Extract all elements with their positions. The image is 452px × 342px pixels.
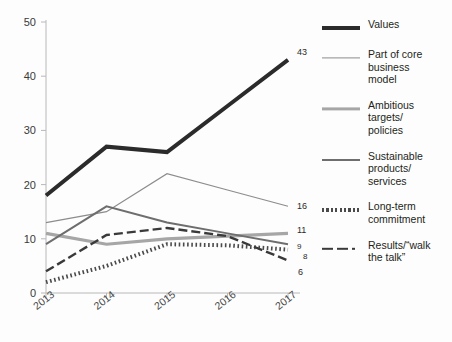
- x-tick-label: 2014: [91, 288, 117, 312]
- legend-label-sustainable-products-services: Sustainable products/ services: [368, 150, 423, 188]
- y-tick-label: 20: [24, 179, 36, 191]
- y-tick-label: 10: [24, 233, 36, 245]
- legend-label-results-walk-the-talk: Results/“walk the talk”: [368, 239, 430, 264]
- line-thick-black-icon: [322, 21, 360, 35]
- x-tick-group: 20132014201520162017: [31, 288, 299, 312]
- line-dotted-icon: [322, 203, 360, 217]
- plot-area: 01020304050 20132014201520162017 4316119…: [0, 0, 318, 342]
- series-end-label-4: 8: [303, 252, 308, 261]
- legend-label-part-of-core-business-model: Part of core business model: [368, 48, 422, 86]
- line-medium-gray-icon: [322, 153, 360, 167]
- chart-legend: Values Part of core business model Ambit…: [322, 18, 452, 277]
- legend-item-part-of-core-business-model[interactable]: Part of core business model: [322, 48, 452, 86]
- x-tick-label: 2015: [152, 288, 178, 312]
- series-end-label-0: 43: [297, 47, 307, 57]
- y-tick-label: 30: [24, 124, 36, 136]
- legend-item-sustainable-products-services[interactable]: Sustainable products/ services: [322, 150, 452, 188]
- series-line-1: [46, 174, 288, 223]
- line-thin-gray-icon: [322, 51, 360, 65]
- series-end-label-5: 6: [298, 267, 303, 277]
- end-label-group: 431611986: [297, 47, 308, 278]
- y-tick-label: 0: [30, 287, 36, 299]
- series-end-label-1: 16: [297, 201, 307, 211]
- line-medium-lightgray-icon: [322, 102, 360, 116]
- y-tick-group: 01020304050: [24, 16, 46, 299]
- legend-label-ambitious-targets-policies: Ambitious targets/ policies: [368, 99, 414, 137]
- legend-item-values[interactable]: Values: [322, 18, 452, 35]
- series-group: [46, 60, 288, 282]
- y-tick-label: 40: [24, 70, 36, 82]
- line-chart-svg: 01020304050 20132014201520162017 4316119…: [0, 0, 318, 342]
- series-end-label-3: 9: [297, 242, 302, 251]
- x-tick-label: 2016: [212, 288, 238, 312]
- legend-item-results-walk-the-talk[interactable]: Results/“walk the talk”: [322, 239, 452, 264]
- series-line-0: [46, 60, 288, 196]
- x-tick-label: 2017: [273, 288, 299, 312]
- legend-item-ambitious-targets-policies[interactable]: Ambitious targets/ policies: [322, 99, 452, 137]
- series-end-label-2: 11: [297, 225, 306, 235]
- legend-item-long-term-commitment[interactable]: Long-term commitment: [322, 200, 452, 225]
- chart-root: 01020304050 20132014201520162017 4316119…: [0, 0, 452, 342]
- legend-label-long-term-commitment: Long-term commitment: [368, 200, 425, 225]
- line-dashdot-icon: [322, 242, 360, 256]
- y-tick-label: 50: [24, 16, 36, 28]
- legend-label-values: Values: [368, 18, 399, 31]
